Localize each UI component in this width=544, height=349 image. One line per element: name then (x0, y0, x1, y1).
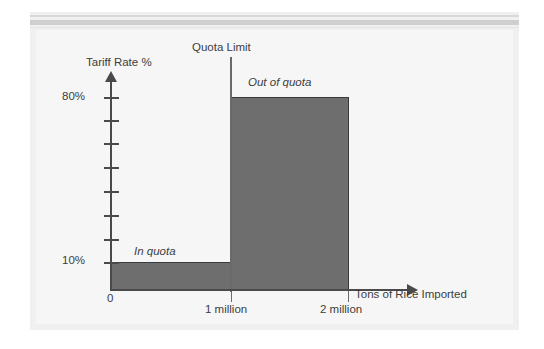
top-rule-thick (30, 20, 519, 25)
y-tick-minor-1 (104, 120, 119, 122)
top-rule-thin (30, 15, 519, 17)
y-tick-10 (104, 262, 119, 264)
quota-limit-label: Quota Limit (192, 41, 251, 53)
x-tick-one-million (231, 291, 232, 302)
y-tick-minor-4 (104, 191, 119, 193)
x-tick-two-million (348, 291, 349, 302)
x-tick-label-one-million: 1 million (205, 303, 247, 315)
y-tick-80 (104, 97, 119, 99)
bar-label-out-of-quota: Out of quota (248, 76, 311, 88)
bar-out-of-quota (231, 97, 349, 290)
y-tick-minor-3 (104, 167, 119, 169)
y-tick-minor-6 (104, 239, 119, 241)
y-tick-minor-2 (104, 143, 119, 145)
y-tick-label-10: 10% (62, 254, 85, 266)
x-tick-label-two-million: 2 million (320, 303, 362, 315)
bar-label-in-quota: In quota (134, 245, 176, 257)
x-tick-label-origin: 0 (107, 292, 113, 304)
bar-in-quota (110, 262, 231, 290)
y-axis-line (110, 80, 112, 291)
y-axis-title: Tariff Rate % (86, 56, 152, 68)
y-axis-arrowhead-icon (105, 71, 117, 82)
top-rule-hairline (30, 27, 519, 28)
y-tick-label-80: 80% (62, 90, 85, 102)
x-axis-title: Tons of Rice Imported (355, 288, 467, 300)
quota-limit-line (230, 57, 232, 292)
tariff-quota-figure: Tariff Rate % Tons of Rice Imported Quot… (0, 0, 544, 349)
y-tick-minor-5 (104, 215, 119, 217)
